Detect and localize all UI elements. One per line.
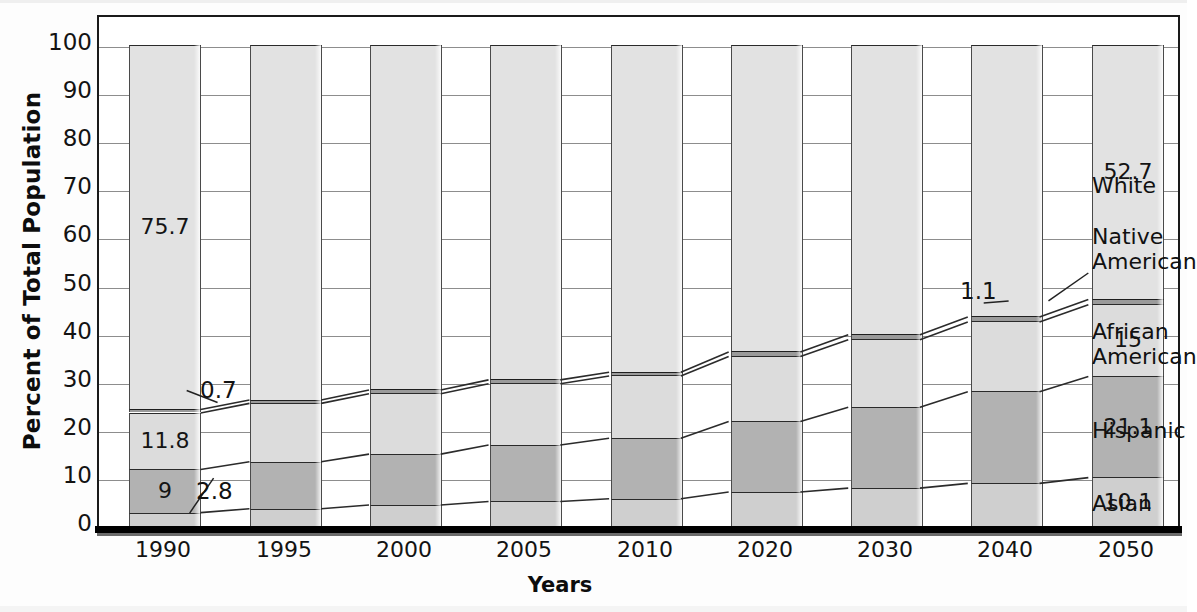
segment-2000-african-american[interactable] — [370, 393, 442, 454]
connector-african-american-2010-2020 — [681, 356, 729, 376]
segment-2040-hispanic[interactable] — [971, 391, 1043, 483]
segment-1995-hispanic[interactable] — [250, 462, 322, 509]
segment-1990-native-american[interactable] — [129, 409, 201, 412]
bar-2010[interactable] — [611, 45, 683, 526]
connector-asian-2000-2005 — [441, 502, 489, 505]
segment-2000-white[interactable] — [370, 45, 442, 389]
bar-2030[interactable] — [851, 45, 923, 526]
segment-2010-african-american[interactable] — [611, 375, 683, 438]
segment-2030-african-american[interactable] — [851, 339, 923, 407]
connector-african-american-2040-2050 — [1040, 305, 1089, 322]
y-tick-90: 90 — [34, 79, 92, 102]
segment-1990-african-american[interactable]: 11.8 — [129, 413, 201, 470]
segment-2050-native-american[interactable] — [1092, 299, 1164, 304]
bar-2020[interactable] — [731, 45, 803, 526]
y-tick-20: 20 — [34, 416, 92, 439]
connector-asian-1990-1995 — [201, 509, 250, 513]
connector-hispanic-2005-2010 — [560, 438, 609, 445]
segment-2010-asian[interactable] — [611, 499, 683, 526]
connector-native-american-1995-2000 — [321, 390, 369, 400]
segment-2040-asian[interactable] — [971, 483, 1043, 526]
segment-2000-hispanic[interactable] — [370, 454, 442, 505]
y-tick-10: 10 — [34, 464, 92, 487]
segment-2040-african-american[interactable] — [971, 321, 1043, 391]
connector-hispanic-2000-2005 — [441, 445, 489, 454]
y-axis-ticks: 1009080706050403020100 — [26, 0, 92, 612]
segment-2030-native-american[interactable] — [851, 334, 923, 339]
segment-2040-white[interactable] — [971, 45, 1043, 316]
x-tick-2010: 2010 — [590, 537, 700, 562]
segment-1995-white[interactable] — [250, 45, 322, 399]
segment-2020-native-american[interactable] — [731, 351, 803, 355]
segment-2030-asian[interactable] — [851, 488, 923, 526]
bar-1995[interactable] — [250, 45, 322, 526]
segment-2010-hispanic[interactable] — [611, 438, 683, 499]
connector-african-american-2005-2010 — [560, 376, 609, 384]
bar-2000[interactable] — [370, 45, 442, 526]
connector-asian-2020-2030 — [800, 488, 848, 492]
segment-2020-hispanic[interactable] — [731, 421, 803, 492]
segment-2010-native-american[interactable] — [611, 372, 683, 376]
connector-native-american-2040-2050 — [1040, 299, 1089, 317]
segment-2020-asian[interactable] — [731, 492, 803, 526]
y-tick-40: 40 — [34, 320, 92, 343]
segment-1995-native-american[interactable] — [250, 400, 322, 403]
connector-african-american-1990-1995 — [201, 403, 250, 413]
x-tick-2000: 2000 — [349, 537, 459, 562]
connector-native-american-2020-2030 — [800, 335, 848, 352]
segment-2005-white[interactable] — [490, 45, 562, 379]
callout-1990-asian: 2.8 — [196, 478, 233, 504]
connector-asian-2010-2020 — [681, 492, 729, 499]
segment-2040-native-american[interactable] — [971, 316, 1043, 321]
segment-1995-asian[interactable] — [250, 509, 322, 526]
bar-2050[interactable]: 10.121.11552.7 — [1092, 45, 1164, 526]
value-label-1990-hispanic: 9 — [130, 478, 200, 503]
segment-2000-asian[interactable] — [370, 505, 442, 526]
connector-hispanic-1990-1995 — [201, 462, 250, 470]
value-label-1990-white: 75.7 — [130, 214, 200, 239]
connector-native-american-2005-2010 — [560, 372, 609, 380]
segment-1990-white[interactable]: 75.7 — [129, 45, 201, 409]
segment-2020-white[interactable] — [731, 45, 803, 351]
connector-asian-1995-2000 — [321, 505, 369, 509]
connector-african-american-1995-2000 — [321, 394, 369, 404]
connector-hispanic-2010-2020 — [681, 422, 729, 439]
segment-2030-white[interactable] — [851, 45, 923, 334]
x-axis-line — [95, 526, 1182, 533]
connector-african-american-2030-2040 — [920, 322, 968, 340]
y-tick-30: 30 — [34, 368, 92, 391]
callout-1990-native-american: 0.7 — [200, 377, 237, 403]
segment-2005-african-american[interactable] — [490, 383, 562, 445]
segment-1990-hispanic[interactable]: 9 — [129, 469, 201, 512]
y-tick-80: 80 — [34, 127, 92, 150]
legend-label-asian: Asian — [1092, 492, 1152, 517]
x-tick-2005: 2005 — [469, 537, 579, 562]
segment-1990-asian[interactable] — [129, 513, 201, 526]
connector-hispanic-2030-2040 — [920, 392, 968, 407]
callout-2050-native-american: 1.1 — [960, 278, 997, 304]
connector-african-american-2020-2030 — [800, 340, 848, 357]
bar-1990[interactable]: 911.875.7 — [129, 45, 201, 526]
x-tick-1995: 1995 — [229, 537, 339, 562]
segment-2010-white[interactable] — [611, 45, 683, 372]
page-bottom-edge — [0, 606, 1187, 612]
segment-2005-asian[interactable] — [490, 501, 562, 526]
page-top-edge — [0, 0, 1187, 3]
segment-2005-native-american[interactable] — [490, 379, 562, 383]
connector-asian-2005-2010 — [560, 499, 609, 502]
plot-area: 911.875.710.121.11552.7 — [97, 15, 1180, 528]
x-tick-2030: 2030 — [830, 537, 940, 562]
segment-2020-african-american[interactable] — [731, 356, 803, 421]
segment-1995-african-american[interactable] — [250, 403, 322, 462]
value-label-1990-african-american: 11.8 — [130, 428, 200, 453]
connector-native-american-2030-2040 — [920, 317, 968, 335]
segment-2005-hispanic[interactable] — [490, 445, 562, 502]
bar-2005[interactable] — [490, 45, 562, 526]
connector-asian-2030-2040 — [920, 483, 968, 488]
connector-hispanic-1995-2000 — [321, 454, 369, 462]
legend-label-hispanic: Hispanic — [1092, 419, 1186, 444]
y-tick-70: 70 — [34, 175, 92, 198]
segment-2030-hispanic[interactable] — [851, 407, 923, 488]
legend-label-african-american: African American — [1092, 320, 1197, 369]
segment-2000-native-american[interactable] — [370, 389, 442, 393]
